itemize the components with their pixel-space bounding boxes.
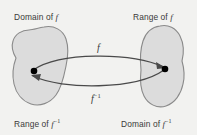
label-range-of-f-inverse: Range of f−1	[14, 120, 60, 129]
label-map-f-inverse: f−1	[91, 94, 101, 104]
label-domain-of-f: Domain of f	[14, 13, 58, 22]
label-domain-of-f-inverse: Domain of f−1	[121, 120, 172, 129]
left-point	[31, 68, 38, 75]
right-point	[162, 66, 169, 73]
label-range-of-f: Range of f	[133, 13, 173, 22]
label-map-f: f	[97, 43, 100, 53]
